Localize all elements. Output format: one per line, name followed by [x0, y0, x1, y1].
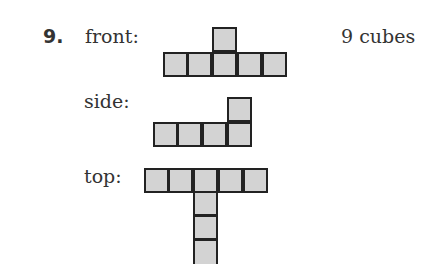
front-cube — [262, 52, 287, 77]
top-cube — [243, 168, 268, 193]
top-label: top: — [84, 165, 122, 187]
side-cube — [177, 122, 202, 147]
answer-text: 9 cubes — [341, 25, 415, 47]
front-cube — [212, 52, 237, 77]
front-cube — [187, 52, 212, 77]
problem-number: 9. — [43, 25, 63, 47]
top-cube — [193, 215, 218, 240]
side-cube — [227, 122, 252, 147]
side-cube — [153, 122, 178, 147]
top-cube — [144, 168, 169, 193]
front-cube — [212, 27, 237, 52]
top-cube — [193, 168, 218, 193]
side-label: side: — [84, 90, 130, 112]
top-cube — [218, 168, 243, 193]
side-cube — [202, 122, 227, 147]
top-cube — [193, 191, 218, 216]
top-cube — [193, 239, 218, 264]
side-cube — [227, 97, 252, 122]
front-cube — [237, 52, 262, 77]
front-label: front: — [85, 25, 139, 47]
front-cube — [163, 52, 188, 77]
top-cube — [168, 168, 193, 193]
